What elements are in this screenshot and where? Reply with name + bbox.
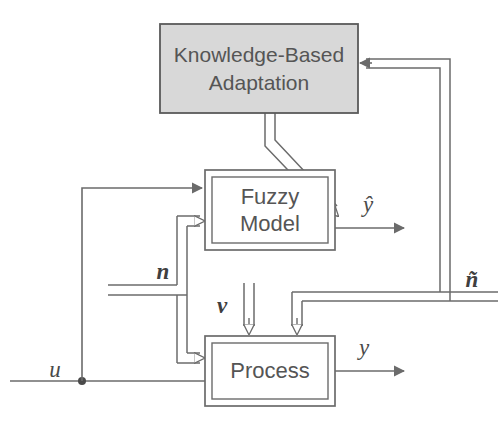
fuzzy-model-label-line2: Model [240, 211, 300, 236]
n-tilde-feedback-outer [366, 68, 440, 292]
process-label: Process [230, 358, 309, 383]
fuzzy-model-label-line1: Fuzzy [241, 184, 300, 209]
block-diagram-figure: Knowledge-Based Adaptation Fuzzy Model P… [0, 0, 502, 447]
block-process[interactable]: Process [205, 336, 335, 406]
signal-label-y-hat: ŷ [361, 192, 374, 217]
kba-box[interactable] [160, 24, 358, 113]
diagram-canvas: Knowledge-Based Adaptation Fuzzy Model P… [0, 0, 502, 447]
signal-label-v: v [217, 293, 228, 318]
connection-n-bus [108, 216, 204, 363]
kba-label-line2: Adaptation [209, 71, 309, 94]
connection-v-to-process [244, 283, 254, 334]
signal-label-n: n [157, 259, 170, 284]
block-fuzzy-model[interactable]: Fuzzy Model [205, 170, 335, 250]
signal-label-y: y [357, 335, 370, 360]
signal-label-n-tilde: ñ [466, 267, 479, 292]
kba-label-line1: Knowledge-Based [174, 43, 344, 66]
signal-label-u: u [49, 357, 61, 382]
block-knowledge-based-adaptation[interactable]: Knowledge-Based Adaptation [160, 24, 358, 113]
n-tilde-feedback-inner [366, 59, 450, 301]
